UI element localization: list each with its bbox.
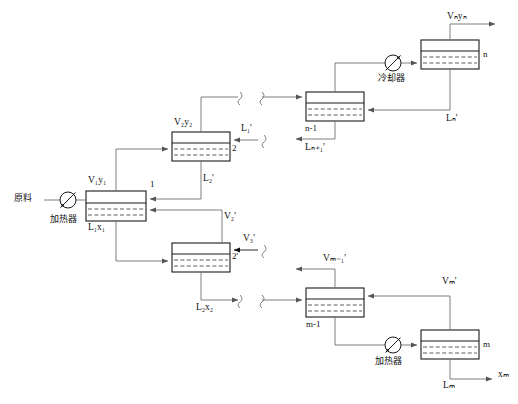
stream-label-v2prime: V₂' (224, 212, 236, 222)
flow-lines-canvas (0, 0, 518, 404)
stage-number-1: 1 (150, 180, 155, 189)
stage-number-n-minus-1: n-1 (305, 124, 317, 133)
line-vnyn-out (450, 24, 495, 40)
stream-label-lnp1prime: Lₙ₊₁' (305, 143, 325, 153)
stream-label-vm1prime: Vₘ₋₁' (323, 254, 346, 264)
line-l1x1-to-stage2prime (116, 221, 168, 261)
stage-number-2-prime: 2' (232, 252, 238, 261)
stream-label-l2prime: L₂' (203, 174, 214, 184)
heater-label-right: 加热器 (375, 357, 402, 366)
line-vmprime-return (368, 296, 450, 330)
line-stage2-vapor-up (201, 97, 238, 132)
stream-label-l1prime: L₁' (241, 124, 252, 134)
stream-label-vmprime: Vₘ' (442, 277, 457, 287)
line-stage-m-minus-1-to-heater (335, 317, 417, 345)
cooler-valve-icon (385, 55, 401, 71)
line-v1y1-to-stage2 (116, 149, 168, 191)
line-vm1prime-out (296, 269, 335, 288)
stream-label-l2x2: L₂x₂ (196, 303, 213, 313)
feed-label: 原料 (14, 194, 32, 203)
line-lm-xm-out (450, 359, 492, 379)
stage-box-2 (172, 132, 230, 161)
stage-number-m: m (483, 340, 490, 349)
stage-box-n-minus-1 (306, 92, 364, 121)
heater-valve-icon-right (385, 337, 401, 353)
stage-box-2-prime (172, 243, 230, 272)
stage-number-n: n (483, 50, 488, 59)
cooler-label: 冷却器 (378, 74, 405, 83)
line-v2prime-return-to-stage1 (150, 210, 222, 243)
stream-label-v2y2: V₂y₂ (174, 118, 192, 128)
stream-label-v1y1: V₁y₁ (88, 176, 106, 186)
stream-label-lm: Lₘ (443, 381, 455, 391)
heater-valve-icon-left (60, 192, 76, 208)
stream-label-lnprime: Lₙ' (446, 114, 458, 124)
stage-number-2: 2 (232, 144, 237, 153)
stream-label-vnyn: Vₙyₙ (447, 12, 467, 22)
stream-label-l1x1: L₁x₁ (88, 223, 105, 233)
stage-box-m-minus-1 (306, 288, 364, 317)
stage-box-m (421, 330, 479, 359)
stream-label-xm: xₘ (498, 370, 509, 380)
stage-box-n (421, 40, 479, 69)
heater-label-left: 加热器 (50, 215, 77, 224)
stream-label-v3prime: V₃' (243, 234, 255, 244)
stage-box-1 (86, 191, 146, 221)
stage-number-m-minus-1: m-1 (306, 320, 321, 329)
line-l2x2-out (201, 272, 238, 300)
process-flow-diagram: 原料 加热器 V₁y₁ L₁x₁ 1 V₂y₂ L₁' 2 L₂' V₂' V₃… (0, 0, 518, 404)
line-l2prime-return-to-stage1 (150, 161, 201, 199)
